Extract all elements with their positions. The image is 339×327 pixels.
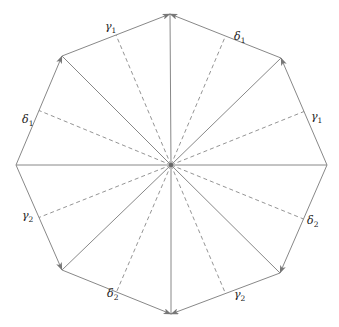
dashed-spoke-5 [117,165,172,292]
edge-arrow-3 [280,165,327,273]
dashed-spoke-6 [39,165,171,218]
spoke-v0 [170,14,171,165]
spoke-v7 [62,56,171,165]
center-point [169,163,173,167]
dashed-spoke-1 [171,36,226,165]
edge-arrow-7 [16,56,62,165]
edge-label-0: γ1 [105,20,116,35]
spoke-v1 [171,58,281,165]
edge-label-2: γ1 [311,110,322,125]
edge-label-5: δ2 [107,287,119,302]
edge-label-7: δ1 [22,113,33,128]
dashed-spoke-2 [171,112,304,166]
edge-label-4: γ2 [234,288,246,303]
edge-arrow-5 [62,270,171,314]
edge-arrow-1 [170,14,281,58]
spoke-v3 [171,165,280,273]
edge-label-1: δ1 [234,30,245,45]
edge-arrow-0 [62,14,170,56]
edge-arrow-4 [171,273,280,314]
edge-arrow-2 [281,58,327,165]
octagon-diagram: γ1δ1γ1δ2γ2δ2γ2δ1 [0,0,339,327]
edge-label-3: δ2 [307,214,319,229]
edge-label-6: γ2 [22,209,34,224]
spoke-v5 [62,165,171,270]
